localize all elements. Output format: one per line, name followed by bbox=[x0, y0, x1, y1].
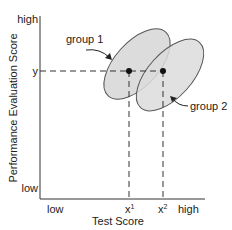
x1-label: x1 bbox=[125, 203, 135, 215]
point-x1 bbox=[126, 68, 132, 74]
y-low-label: low bbox=[21, 182, 38, 194]
x-high-label: high bbox=[178, 203, 199, 215]
diagram-canvas: group 1 group 2 high y low low x1 x2 hig… bbox=[0, 0, 232, 230]
y-axis-title: Performance Evaluation Score bbox=[7, 33, 19, 182]
x2-label: x2 bbox=[158, 203, 168, 215]
group-1-label: group 1 bbox=[66, 33, 103, 45]
group-2-label: group 2 bbox=[190, 100, 227, 112]
y-mid-label: y bbox=[33, 65, 39, 77]
y-high-label: high bbox=[17, 13, 38, 25]
x-low-label: low bbox=[47, 203, 64, 215]
x-axis-title: Test Score bbox=[92, 215, 144, 227]
point-x2 bbox=[160, 68, 166, 74]
